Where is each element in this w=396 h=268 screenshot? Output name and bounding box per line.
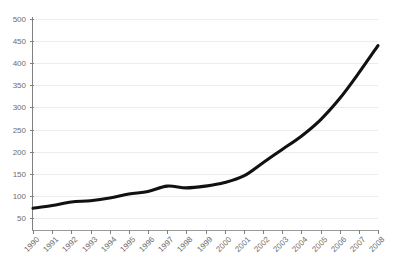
y-axis-tick-label: 250 xyxy=(0,125,26,134)
x-axis-tick-mark xyxy=(110,230,111,234)
y-axis-tick-mark xyxy=(30,41,34,42)
y-axis-tick-label: 100 xyxy=(0,191,26,200)
clipped-header-text xyxy=(8,0,188,6)
x-axis-tick-mark xyxy=(225,230,226,234)
y-axis-tick-mark xyxy=(30,130,34,131)
y-axis-tick-label: 400 xyxy=(0,59,26,68)
series-path xyxy=(33,46,378,209)
plot-area xyxy=(33,19,378,229)
y-axis-tick-label: 300 xyxy=(0,103,26,112)
y-axis-tick-label: 150 xyxy=(0,169,26,178)
x-axis-tick-mark xyxy=(378,230,379,234)
x-axis-tick-mark xyxy=(71,230,72,234)
x-axis-tick-mark xyxy=(91,230,92,234)
x-axis-tick-mark xyxy=(244,230,245,234)
y-axis-tick-mark xyxy=(30,63,34,64)
y-axis-tick-mark xyxy=(30,152,34,153)
y-axis-tick-label: 350 xyxy=(0,81,26,90)
y-axis-tick-mark xyxy=(30,218,34,219)
y-axis-tick-mark xyxy=(30,174,34,175)
x-axis-tick-mark xyxy=(321,230,322,234)
x-axis-tick-mark xyxy=(359,230,360,234)
x-axis-tick-mark xyxy=(263,230,264,234)
y-axis-tick-label: 500 xyxy=(0,15,26,24)
x-axis-tick-mark xyxy=(186,230,187,234)
x-axis-tick-mark xyxy=(340,230,341,234)
y-axis-tick-mark xyxy=(30,19,34,20)
x-axis-tick-mark xyxy=(129,230,130,234)
y-axis-tick-label: 200 xyxy=(0,147,26,156)
x-axis-tick-mark xyxy=(33,230,34,234)
y-axis-tick-label: 450 xyxy=(0,37,26,46)
y-axis-tick-label: 50 xyxy=(0,213,26,222)
line-chart: 50100150200250300350400450500 1990199119… xyxy=(0,0,396,268)
x-axis-tick-mark xyxy=(206,230,207,234)
x-axis-tick-mark xyxy=(301,230,302,234)
x-axis-tick-mark xyxy=(52,230,53,234)
x-axis-tick-mark xyxy=(167,230,168,234)
x-axis-tick-mark xyxy=(148,230,149,234)
y-axis-tick-mark xyxy=(30,196,34,197)
x-axis-tick-mark xyxy=(282,230,283,234)
y-axis-tick-mark xyxy=(30,85,34,86)
y-axis-tick-mark xyxy=(30,107,34,108)
data-series-line xyxy=(33,19,378,229)
